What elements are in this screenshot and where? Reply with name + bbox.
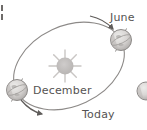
earth-partial <box>137 82 147 100</box>
label-june: June <box>110 12 135 23</box>
direction-arrow-december <box>21 100 42 114</box>
earth-december <box>6 79 28 102</box>
earth-june <box>110 29 132 52</box>
sun-icon <box>49 50 81 82</box>
label-today: Today <box>82 109 115 120</box>
corner-tick-mark <box>1 5 3 20</box>
label-december: December <box>33 85 92 96</box>
orbit-diagram: June December Today <box>0 0 147 130</box>
